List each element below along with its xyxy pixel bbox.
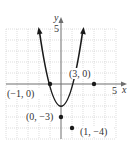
right-arrow-icon <box>80 27 86 35</box>
parabola-graph: y 5 x 5 (−1, 0) (3, 0) (0, −3) (1, −4) <box>0 0 128 152</box>
x-tick-5: 5 <box>112 85 117 96</box>
label-1-neg4: (1, −4) <box>80 126 107 138</box>
label-0-neg3: (0, −3) <box>26 111 53 123</box>
point-0-neg3 <box>59 115 63 119</box>
point-neg1-0 <box>48 82 52 86</box>
y-axis-label: y <box>53 12 59 23</box>
axes <box>6 20 124 139</box>
x-axis-label: x <box>121 84 127 95</box>
y-tick-5: 5 <box>54 23 59 34</box>
point-vertex-1-neg4 <box>70 126 74 130</box>
point-3-0 <box>92 82 96 86</box>
left-arrow-icon <box>37 27 43 35</box>
y-axis-arrow-icon <box>59 17 64 23</box>
label-3-0: (3, 0) <box>69 68 91 80</box>
label-neg1-0: (−1, 0) <box>7 88 34 100</box>
